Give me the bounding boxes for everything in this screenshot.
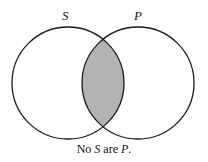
caption-prefix: No (77, 142, 95, 156)
set-label-p: P (134, 8, 142, 24)
caption: No S are P. (0, 142, 208, 157)
venn-diagram (0, 0, 208, 162)
caption-suffix: . (128, 142, 131, 156)
caption-middle: are (100, 142, 121, 156)
set-label-s: S (62, 8, 69, 24)
